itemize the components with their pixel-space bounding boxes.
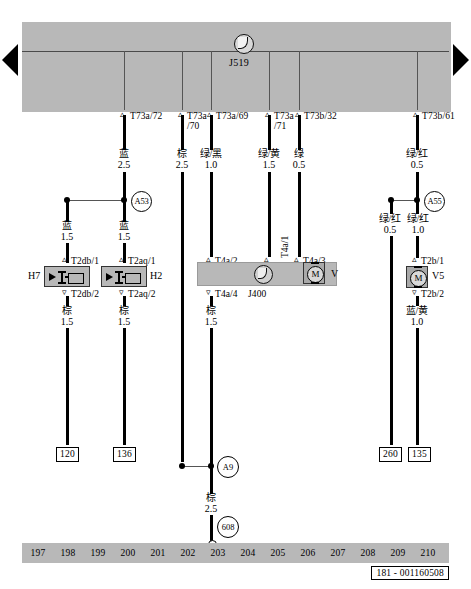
motor-icon: M — [307, 266, 324, 283]
track-number: 210 — [416, 548, 440, 558]
wire-segment — [416, 115, 419, 150]
continuation-arrow-right-icon — [453, 44, 469, 76]
control-unit-partition — [299, 51, 300, 110]
track-number: 207 — [326, 548, 350, 558]
wire-segment — [390, 236, 393, 445]
terminal-label-t73a-71-cont: /71 — [274, 121, 286, 131]
track-number: 209 — [386, 548, 410, 558]
control-unit-partition — [211, 51, 212, 110]
wire-segment — [210, 515, 213, 543]
continuation-arrow-left-icon — [2, 44, 18, 76]
horn-contact-bottom — [115, 282, 123, 284]
wire-label-green-red-1-0: 绿/红 1.0 — [396, 213, 440, 235]
track-number: 205 — [266, 548, 290, 558]
wire-segment — [210, 115, 213, 150]
track-number: 197 — [26, 548, 50, 558]
terminal-label-t4a-4: T4a/4 — [215, 289, 238, 299]
wire-label-blue-1-5-h2: 蓝 1.5 — [103, 220, 145, 242]
wire-segment — [390, 200, 393, 214]
wire-label-blue-2-5: 蓝 2.5 — [103, 148, 145, 170]
track-number: 204 — [236, 548, 260, 558]
reference-box-260[interactable]: 260 — [379, 447, 402, 462]
splice-dot — [179, 463, 185, 469]
wire-label-brown-2-5-ground: 棕 2.5 — [190, 492, 232, 514]
terminal-label-t73a-69: T73a/69 — [216, 111, 248, 121]
wire-segment — [181, 115, 184, 150]
track-number: 206 — [296, 548, 320, 558]
horn-speaker-icon — [49, 273, 56, 281]
wire-segment — [268, 172, 271, 257]
control-unit-partition — [182, 51, 183, 110]
motor-terminal-top — [311, 262, 319, 264]
terminal-label-t2db-2: T2db/2 — [71, 289, 99, 299]
component-label-h2: H2 — [150, 270, 162, 281]
wire-label-blue-yellow-1-0: 蓝/黄 1.0 — [394, 305, 440, 327]
wiring-diagram-page: J519 ▵ T73a/72 ▵ T73a /70 ▵ T73a/69 ▵ T7… — [0, 0, 471, 589]
component-label-v: V — [331, 268, 338, 279]
horn-body-rect — [125, 273, 141, 284]
wire-segment — [66, 200, 69, 222]
control-unit-icon — [234, 34, 254, 54]
splice-branch-line — [68, 200, 125, 201]
wire-segment — [416, 200, 419, 214]
splice-marker-a53: A53 — [131, 191, 152, 212]
track-number: 203 — [206, 548, 230, 558]
wire-segment — [66, 328, 69, 445]
splice-marker-a9: A9 — [217, 456, 239, 478]
reference-box-135[interactable]: 135 — [408, 447, 431, 462]
wire-label-brown-1-5-h7: 棕 1.5 — [46, 305, 88, 327]
terminal-label-t4a-1: T4a/1 — [280, 236, 290, 258]
wire-segment — [210, 328, 213, 468]
wire-label-green-black-1-0: 绿/黑 1.0 — [190, 148, 232, 170]
wire-label-brown-1-5-j400: 棕 1.5 — [190, 305, 232, 327]
track-number: 208 — [356, 548, 380, 558]
control-unit-partition — [269, 51, 270, 110]
wire-segment — [123, 115, 126, 150]
control-unit-name: J519 — [229, 57, 249, 68]
terminal-tick-icon: ▵ — [412, 255, 417, 264]
component-h7-horn — [44, 266, 90, 287]
wire-segment — [123, 328, 126, 445]
horn-body-rect — [68, 273, 84, 284]
terminal-label-t2db-1: T2db/1 — [71, 256, 99, 266]
terminal-label-t73a-72: T73a/72 — [130, 111, 162, 121]
horn-symbol-icon — [49, 271, 87, 284]
wire-segment — [298, 172, 301, 257]
horn-contact-bottom — [58, 282, 66, 284]
terminal-label-t73b-61: T73b/61 — [422, 111, 455, 121]
wire-label-blue-1-5-h7: 蓝 1.5 — [46, 220, 88, 242]
component-label-h7: H7 — [28, 270, 40, 281]
component-label-v5: V5 — [432, 270, 444, 281]
terminal-label-t73a-70: T73a — [187, 111, 207, 121]
wire-segment — [298, 115, 301, 150]
track-number: 198 — [56, 548, 80, 558]
wire-segment — [210, 466, 213, 494]
track-number: 202 — [176, 548, 200, 558]
component-h2-horn — [101, 266, 147, 287]
component-v-motor: M — [303, 262, 325, 284]
control-unit-partition — [417, 51, 418, 110]
wire-label-green-0-5: 绿 0.5 — [281, 148, 317, 170]
terminal-label-t2aq-1: T2aq/1 — [128, 256, 156, 266]
wiper-module-icon — [254, 265, 273, 284]
wire-segment — [268, 115, 271, 150]
ground-marker-608: 608 — [217, 516, 239, 538]
splice-marker-a55: A55 — [424, 191, 445, 212]
terminal-label-t2b-1: T2b/1 — [421, 256, 444, 266]
control-unit-divider — [22, 51, 449, 52]
track-number: 201 — [146, 548, 170, 558]
reference-box-136[interactable]: 136 — [113, 447, 136, 462]
wire-segment — [181, 172, 184, 462]
motor-terminal-top — [414, 266, 422, 268]
reference-box-120[interactable]: 120 — [56, 447, 79, 462]
control-unit-partition — [124, 51, 125, 110]
terminal-label-t2aq-2: T2aq/2 — [128, 289, 156, 299]
wire-label-green-red-0-5: 绿/红 0.5 — [396, 148, 438, 170]
diagram-id-label: 181 - 001160508 — [371, 566, 449, 580]
wire-label-brown-1-5-h2: 棕 1.5 — [103, 305, 145, 327]
terminal-label-t73b-32: T73b/32 — [304, 111, 337, 121]
terminal-label-t73a-70-cont: /70 — [187, 121, 199, 131]
wire-segment — [123, 200, 126, 222]
terminal-tick-icon: ▵ — [119, 255, 124, 264]
terminal-label-t73a-71: T73a — [274, 111, 294, 121]
